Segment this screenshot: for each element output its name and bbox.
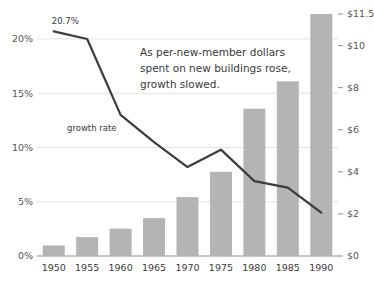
x-tick-label: 1975 — [209, 262, 233, 273]
growth-rate-series-label: growth rate — [67, 123, 117, 133]
bar — [177, 197, 199, 256]
x-tick-label: 1970 — [175, 262, 199, 273]
bar — [210, 172, 232, 256]
bar — [76, 237, 98, 256]
annotation-line: As per-new-member dollars — [140, 46, 285, 58]
chart-container: 0%5%10%15%20%$0$2$4$6$8$10$11.5195019551… — [0, 0, 374, 302]
x-tick-label: 1980 — [242, 262, 266, 273]
bar — [310, 14, 332, 256]
bar — [110, 229, 132, 256]
right-tick-label: $10 — [347, 40, 365, 51]
combo-bar-line-chart: 0%5%10%15%20%$0$2$4$6$8$10$11.5195019551… — [0, 0, 374, 302]
left-tick-label: 5% — [18, 196, 33, 207]
chart-annotation: As per-new-member dollarsspent on new bu… — [140, 46, 291, 90]
bar — [277, 81, 299, 256]
right-tick-label: $11.5 — [347, 8, 374, 19]
x-tick-label: 1960 — [109, 262, 133, 273]
right-tick-label: $6 — [347, 124, 359, 135]
x-tick-label: 1985 — [276, 262, 300, 273]
left-axis-ticks: 0%5%10%15%20% — [12, 33, 33, 261]
bar — [43, 245, 65, 256]
left-tick-label: 10% — [12, 142, 33, 153]
x-tick-label: 1955 — [75, 262, 99, 273]
bar — [143, 218, 165, 256]
x-tick-label: 1990 — [309, 262, 333, 273]
first-point-data-label: 20.7% — [52, 16, 79, 26]
left-tick-label: 20% — [12, 33, 33, 44]
annotation-line: growth slowed. — [140, 78, 220, 90]
left-tick-label: 0% — [18, 250, 33, 261]
right-tick-label: $8 — [347, 82, 359, 93]
x-tick-label: 1965 — [142, 262, 166, 273]
x-tick-label: 1950 — [42, 262, 66, 273]
right-tick-label: $4 — [347, 166, 359, 177]
x-axis-ticks: 195019551960196519701975198019851990 — [42, 262, 334, 273]
annotation-line: spent on new buildings rose, — [140, 62, 291, 74]
right-axis-ticks: $0$2$4$6$8$10$11.5 — [338, 8, 374, 261]
left-tick-label: 15% — [12, 88, 33, 99]
right-tick-label: $0 — [347, 250, 359, 261]
right-tick-label: $2 — [347, 208, 359, 219]
